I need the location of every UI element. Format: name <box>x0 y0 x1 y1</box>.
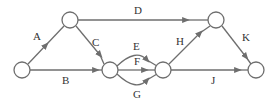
edge-label-a: A <box>33 30 41 42</box>
edge-label-f: F <box>134 55 140 67</box>
node-5 <box>208 12 224 28</box>
edge-label-d: D <box>134 4 142 16</box>
edge-j: J <box>171 70 248 86</box>
edge-k: K <box>222 26 251 64</box>
edge-label-k: K <box>242 31 250 43</box>
edge-h: H <box>169 26 210 64</box>
edge-label-h: H <box>176 35 184 47</box>
node-1 <box>14 62 30 78</box>
node-3 <box>102 62 118 78</box>
edge-d: D <box>78 4 208 20</box>
node-4 <box>155 62 171 78</box>
edge-g: G <box>117 74 157 100</box>
edge-a: A <box>28 26 64 64</box>
edge-label-c: C <box>92 36 99 48</box>
edge-f: F <box>118 55 155 70</box>
edge-label-b: B <box>62 74 69 86</box>
edge-b: B <box>30 70 102 86</box>
edge-label-e: E <box>133 40 140 52</box>
edge-label-g: G <box>133 88 141 100</box>
activity-network-diagram: A B C D E F G H <box>0 0 279 103</box>
edge-c: C <box>76 26 104 64</box>
node-2 <box>62 12 78 28</box>
edge-label-j: J <box>211 74 216 86</box>
node-6 <box>248 62 264 78</box>
